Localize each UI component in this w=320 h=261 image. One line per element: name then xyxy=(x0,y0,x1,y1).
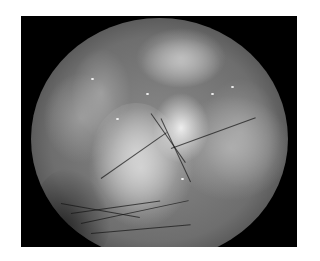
tissue-fold xyxy=(141,38,221,88)
endoscopic-view xyxy=(31,18,288,247)
specular-highlight xyxy=(231,86,234,88)
tissue-fold xyxy=(71,48,131,138)
specular-highlight xyxy=(91,78,94,80)
specular-highlight xyxy=(116,118,119,120)
specular-highlight xyxy=(211,93,214,95)
specular-highlight xyxy=(181,178,184,180)
specular-highlight xyxy=(146,93,149,95)
image-frame xyxy=(21,16,297,247)
